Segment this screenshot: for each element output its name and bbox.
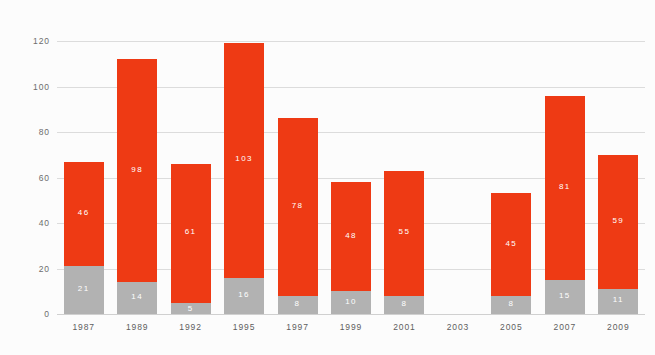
bar-segment-lower[interactable]: 8 [384, 296, 424, 314]
y-tick-label: 80 [16, 127, 50, 137]
bar-segment-upper[interactable]: 48 [331, 182, 371, 291]
bar-value-label: 103 [224, 155, 264, 163]
bar-segment-upper[interactable]: 45 [491, 193, 531, 295]
bar-segment-lower[interactable]: 15 [545, 280, 585, 314]
y-tick-label: 20 [16, 264, 50, 274]
bar-value-label: 14 [117, 293, 157, 301]
bar-group[interactable]: 16103 [224, 41, 264, 314]
bar-group[interactable]: 845 [491, 41, 531, 314]
bar-segment-upper[interactable]: 98 [117, 59, 157, 282]
bar-segment-upper[interactable]: 59 [598, 155, 638, 289]
x-tick-label: 1995 [214, 322, 274, 332]
bar-segment-lower[interactable]: 16 [224, 278, 264, 314]
bar-segment-lower[interactable]: 8 [491, 296, 531, 314]
bar-value-label: 46 [64, 209, 104, 217]
bar-value-label: 5 [171, 305, 211, 313]
x-tick-label: 2009 [588, 322, 648, 332]
y-tick-label: 100 [16, 82, 50, 92]
y-tick-label: 120 [16, 36, 50, 46]
bar-segment-upper[interactable]: 81 [545, 96, 585, 280]
bar-chart: 020406080100120 214614985611610387810488… [0, 0, 655, 355]
bar-value-label: 21 [64, 285, 104, 293]
bar-value-label: 59 [598, 217, 638, 225]
bar-segment-lower[interactable]: 8 [278, 296, 318, 314]
gridline-0 [57, 314, 645, 315]
bar-segment-upper[interactable]: 78 [278, 118, 318, 295]
bar-value-label: 45 [491, 240, 531, 248]
bar-group[interactable]: 2146 [64, 41, 104, 314]
bar-segment-upper[interactable]: 103 [224, 43, 264, 277]
bar-value-label: 78 [278, 202, 318, 210]
x-tick-label: 1989 [107, 322, 167, 332]
bar-value-label: 11 [598, 296, 638, 304]
bar-value-label: 81 [545, 183, 585, 191]
bar-group[interactable]: 561 [171, 41, 211, 314]
x-tick-label: 2005 [481, 322, 541, 332]
x-tick-label: 2007 [535, 322, 595, 332]
x-tick-label: 2003 [428, 322, 488, 332]
bar-value-label: 61 [171, 228, 211, 236]
bar-segment-upper[interactable]: 46 [64, 162, 104, 267]
bar-segment-lower[interactable]: 10 [331, 291, 371, 314]
y-axis: 020406080100120 [0, 0, 50, 355]
bar-value-label: 8 [384, 300, 424, 308]
bar-value-label: 8 [278, 300, 318, 308]
bar-value-label: 15 [545, 292, 585, 300]
bar-value-label: 48 [331, 232, 371, 240]
x-tick-label: 1992 [161, 322, 221, 332]
bar-segment-upper[interactable]: 61 [171, 164, 211, 303]
plot-area: 2146149856116103878104885584515811159 [57, 41, 645, 314]
bar-group[interactable]: 855 [384, 41, 424, 314]
y-tick-label: 60 [16, 173, 50, 183]
bar-segment-lower[interactable]: 14 [117, 282, 157, 314]
x-tick-label: 1997 [268, 322, 328, 332]
bar-segment-upper[interactable]: 55 [384, 171, 424, 296]
x-tick-label: 1999 [321, 322, 381, 332]
x-tick-label: 1987 [54, 322, 114, 332]
y-tick-label: 0 [16, 309, 50, 319]
bar-value-label: 98 [117, 166, 157, 174]
bar-group[interactable]: 1159 [598, 41, 638, 314]
bar-group[interactable]: 1581 [545, 41, 585, 314]
bar-value-label: 8 [491, 300, 531, 308]
bar-value-label: 10 [331, 298, 371, 306]
bar-segment-lower[interactable]: 5 [171, 303, 211, 314]
bar-group[interactable]: 878 [278, 41, 318, 314]
y-tick-label: 40 [16, 218, 50, 228]
bar-segment-lower[interactable]: 21 [64, 266, 104, 314]
bar-value-label: 16 [224, 291, 264, 299]
x-tick-label: 2001 [374, 322, 434, 332]
bar-segment-lower[interactable]: 11 [598, 289, 638, 314]
bar-group[interactable]: 1048 [331, 41, 371, 314]
bar-value-label: 55 [384, 228, 424, 236]
bar-group[interactable]: 1498 [117, 41, 157, 314]
